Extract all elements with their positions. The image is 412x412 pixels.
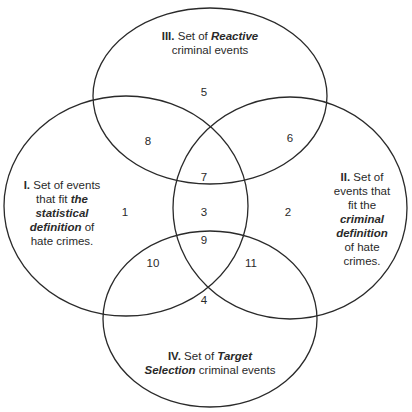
region-3-number: 3 bbox=[201, 206, 207, 218]
set-label-line: criminal events bbox=[130, 43, 290, 57]
set-label-line: of hate bbox=[320, 240, 404, 254]
set-iii-label: III. Set of Reactivecriminal events bbox=[130, 29, 290, 57]
region-10-number: 10 bbox=[147, 257, 160, 269]
set-ii-label: II. Set ofevents thatfit thecriminaldefi… bbox=[320, 170, 404, 268]
set-label-line: statistical bbox=[14, 206, 110, 220]
set-label-line: events that bbox=[320, 184, 404, 198]
region-11-number: 11 bbox=[245, 257, 257, 269]
region-2-number: 2 bbox=[285, 206, 291, 218]
set-i-label: I. Set of eventsthat fit thestatisticald… bbox=[14, 178, 110, 248]
set-label-line: fit the bbox=[320, 198, 404, 212]
set-label-line: definition bbox=[320, 226, 404, 240]
region-4-number: 4 bbox=[201, 294, 207, 306]
set-label-line: definition of bbox=[14, 220, 110, 234]
region-7-number: 7 bbox=[201, 171, 207, 183]
region-9-number: 9 bbox=[201, 234, 207, 246]
set-label-line: hate crimes. bbox=[14, 234, 110, 248]
set-label-line: that fit the bbox=[14, 192, 110, 206]
set-label-line: criminal bbox=[320, 212, 404, 226]
region-6-number: 6 bbox=[287, 132, 293, 144]
set-label-line: II. Set of bbox=[320, 170, 404, 184]
set-label-line: Selection criminal events bbox=[130, 363, 290, 377]
region-1-number: 1 bbox=[122, 206, 128, 218]
region-8-number: 8 bbox=[145, 135, 151, 147]
set-label-line: I. Set of events bbox=[14, 178, 110, 192]
set-label-line: crimes. bbox=[320, 254, 404, 268]
set-label-line: III. Set of Reactive bbox=[130, 29, 290, 43]
set-label-line: IV. Set of Target bbox=[130, 349, 290, 363]
region-5-number: 5 bbox=[201, 86, 207, 98]
set-iv-label: IV. Set of TargetSelection criminal even… bbox=[130, 349, 290, 377]
